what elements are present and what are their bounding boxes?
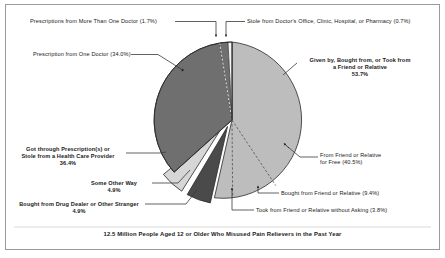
leader-one-doctor (131, 55, 181, 70)
label-got-through-line1: Got through Prescription(s) or (10, 146, 126, 153)
label-from-friend-free-line1: From Friend or Relative (320, 152, 381, 159)
label-from-friend-free: From Friend or Relative for Free (40.5%) (320, 152, 381, 166)
label-given-by-friend-relative: Given by, Bought from, or Took from a Fr… (300, 57, 420, 79)
label-got-through-value: 36.4% (10, 160, 126, 167)
label-some-other-way-line1: Some Other Way (78, 180, 150, 187)
label-got-through-line2: Stole from a Health Care Provider (10, 153, 126, 160)
label-from-friend-free-line2: for Free (40.5%) (320, 159, 381, 166)
label-some-other-way: Some Other Way 4.9% (78, 180, 150, 194)
leader-stole-from-provider (226, 22, 245, 37)
label-one-doctor: Prescription from One Doctor (34.0%) (33, 51, 131, 58)
label-drug-dealer-line1: Bought from Drug Dealer or Other Strange… (15, 201, 143, 208)
label-some-other-way-value: 4.9% (78, 187, 150, 194)
label-given-by-line1: Given by, Bought from, or Took from (300, 57, 420, 64)
pie-chart-figure: Prescriptions from More Than One Doctor … (0, 0, 445, 258)
label-drug-dealer: Bought from Drug Dealer or Other Strange… (15, 201, 143, 215)
label-stole-from-provider: Stole from Doctor's Office, Clinic, Hosp… (247, 18, 411, 25)
leader-dot-one-doctor (181, 69, 183, 71)
label-bought-from-friend: Bought from Friend or Relative (9.4%) (281, 190, 379, 197)
label-given-by-value: 53.7% (300, 71, 420, 78)
leader-more-than-one-doctor (175, 22, 216, 37)
pie-chart-canvas (0, 0, 445, 258)
label-health-care-provider: Got through Prescription(s) or Stole fro… (10, 146, 126, 168)
chart-caption: 12.5 Million People Aged 12 or Older Who… (0, 231, 445, 238)
label-more-than-one-doctor: Prescriptions from More Than One Doctor … (30, 18, 157, 25)
label-given-by-line2: a Friend or Relative (300, 64, 420, 71)
label-took-from-friend: Took from Friend or Relative without Ask… (256, 207, 387, 214)
leader-given-by-friend-relative (283, 63, 297, 75)
label-drug-dealer-value: 4.9% (15, 208, 143, 215)
